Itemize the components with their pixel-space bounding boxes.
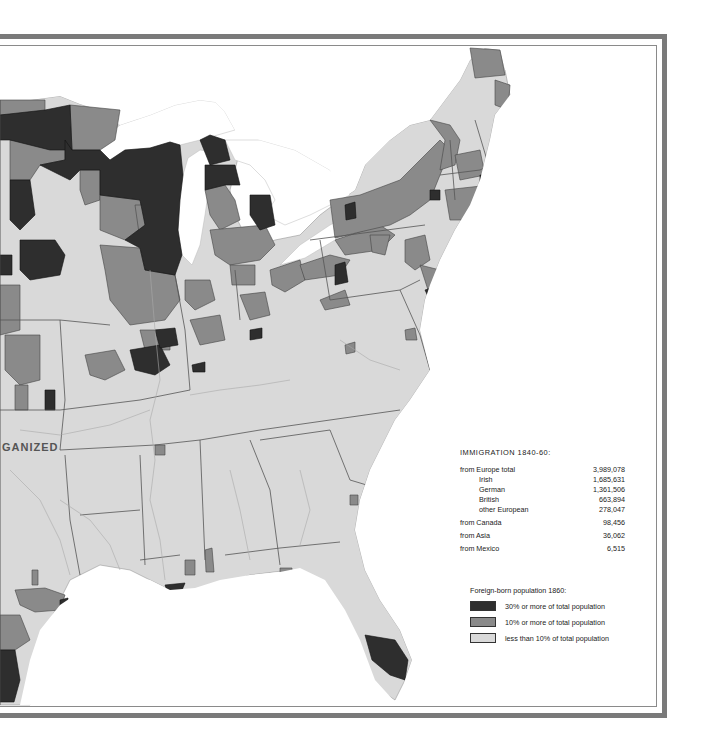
source-row: from Canada 98,456 (460, 517, 625, 528)
legend-label: less than 10% of total population (505, 634, 609, 643)
stat-value: 36,062 (603, 530, 625, 541)
europe-sub-row: British 663,894 (460, 495, 625, 505)
unorganized-territory-label: GANIZED (2, 441, 59, 453)
immigration-stats-panel: IMMIGRATION 1840-60: from Europe total 3… (460, 448, 625, 554)
stat-label: from Canada (460, 517, 502, 528)
source-row: from Mexico 6,515 (460, 543, 625, 554)
stat-value: 1,361,506 (593, 485, 625, 495)
stat-value: 1,685,631 (593, 475, 625, 485)
legend-label: 10% or more of total population (505, 618, 605, 627)
stat-label: from Europe total (460, 465, 515, 475)
legend-swatch-high (470, 601, 496, 611)
legend-label: 30% or more of total population (505, 602, 605, 611)
legend-swatch-medium (470, 617, 496, 627)
map-legend: Foreign-born population 1860: 30% or mor… (470, 586, 609, 649)
stat-value: 663,894 (599, 495, 625, 505)
stat-label: German (479, 485, 505, 495)
stat-label: Irish (479, 475, 493, 485)
stat-label: from Asia (460, 530, 490, 541)
europe-sub-row: Irish 1,685,631 (460, 475, 625, 485)
europe-sub-row: German 1,361,506 (460, 485, 625, 495)
europe-total-row: from Europe total 3,989,078 (460, 465, 625, 475)
europe-sub-row: other European 278,047 (460, 505, 625, 515)
legend-item-medium: 10% or more of total population (470, 617, 609, 627)
legend-title: Foreign-born population 1860: (470, 586, 609, 595)
stat-label: other European (479, 505, 529, 515)
stat-label: British (479, 495, 499, 505)
stat-value: 3,989,078 (593, 465, 625, 475)
legend-swatch-low (470, 633, 496, 643)
legend-item-low: less than 10% of total population (470, 633, 609, 643)
immigration-title: IMMIGRATION 1840-60: (460, 448, 625, 457)
stat-value: 6,515 (607, 543, 625, 554)
source-row: from Asia 36,062 (460, 530, 625, 541)
legend-item-high: 30% or more of total population (470, 601, 609, 611)
stat-value: 98,456 (603, 517, 625, 528)
stat-value: 278,047 (599, 505, 625, 515)
stat-label: from Mexico (460, 543, 499, 554)
